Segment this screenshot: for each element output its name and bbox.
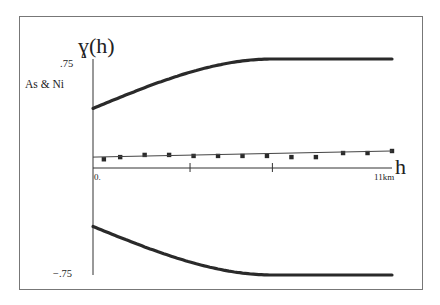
data-point: [314, 155, 318, 159]
x-tick-label-origin: 0.: [94, 172, 101, 182]
y-tick-label-bottom: −.75: [53, 268, 72, 279]
data-point: [167, 153, 171, 157]
y-axis-title: ɣ(h): [78, 33, 115, 58]
variogram-chart: ɣ(h) As & Ni .75 −.75 0. 11km h: [0, 0, 440, 305]
series-group: [93, 59, 394, 275]
y-tick-label-top: .75: [60, 58, 73, 69]
x-tick-label-end: 11km: [374, 172, 394, 182]
data-point: [118, 155, 122, 159]
envelope-curve: [93, 59, 392, 108]
envelope-curve: [93, 227, 392, 276]
data-point: [102, 157, 106, 161]
data-point: [265, 154, 269, 158]
data-point: [289, 155, 293, 159]
series-label: As & Ni: [25, 78, 64, 90]
data-point: [191, 154, 195, 158]
x-axis-title: h: [395, 154, 406, 179]
